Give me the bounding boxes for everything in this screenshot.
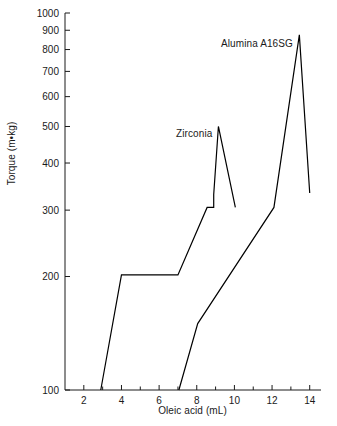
y-tick-label: 800 xyxy=(42,44,59,55)
y-tick-label: 200 xyxy=(42,271,59,282)
y-tick-label: 300 xyxy=(42,205,59,216)
y-tick-label: 400 xyxy=(42,158,59,169)
y-axis-label: Torque (m•kg) xyxy=(6,99,17,209)
series-line-alumina-a16sg xyxy=(179,35,310,390)
x-axis-ticks: 2468101214 xyxy=(81,385,316,406)
y-tick-label: 600 xyxy=(42,91,59,102)
series-label-alumina: Alumina A16SG xyxy=(221,38,293,49)
y-tick-label: 500 xyxy=(42,121,59,132)
data-series-group xyxy=(101,35,310,390)
series-line-zirconia xyxy=(101,126,236,390)
torque-vs-oleic-acid-plot: 1002003004005006007008009001000 24681012… xyxy=(0,0,337,426)
chart-figure: 1002003004005006007008009001000 24681012… xyxy=(0,0,337,426)
y-tick-label: 700 xyxy=(42,66,59,77)
x-axis-label: Oleic acid (mL) xyxy=(65,405,320,416)
y-tick-label: 900 xyxy=(42,25,59,36)
y-tick-label: 100 xyxy=(42,385,59,396)
axes xyxy=(65,13,321,390)
series-label-zirconia: Zirconia xyxy=(176,128,212,139)
y-tick-label: 1000 xyxy=(37,8,60,19)
